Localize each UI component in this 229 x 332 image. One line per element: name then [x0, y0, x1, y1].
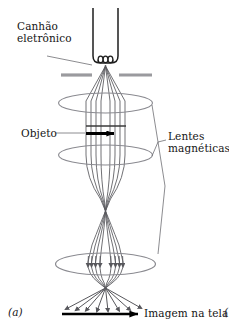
final-diverging-beam: [66, 288, 141, 311]
leader-line-lens-stub: [158, 140, 166, 142]
electron-microscope-diagram: [0, 0, 229, 332]
beam-direction-arrowheads: [88, 256, 123, 266]
label-object: Objeto: [21, 128, 57, 140]
figure-panel-a: Canhão eletrônico Objeto Lentes magnétic…: [0, 0, 229, 332]
electron-gun: [93, 8, 118, 63]
leader-line-lens-3: [158, 142, 165, 254]
filament-coil-icon: [98, 56, 113, 63]
projector-lens-ellipse: [56, 253, 156, 275]
label-electron-gun: Canhão eletrônico: [17, 21, 72, 45]
leader-line-lens-1: [152, 105, 158, 142]
label-screen-image: Imagem na tela: [144, 308, 228, 320]
magnetic-lenses: [56, 93, 156, 275]
leader-line-gun: [47, 56, 92, 65]
panel-label-a: (a): [8, 307, 23, 319]
condenser-lens-ellipse: [59, 93, 153, 113]
label-magnetic-lenses: Lentes magnéticas: [168, 131, 229, 155]
objective-lens-ellipse: [59, 145, 153, 165]
electron-beam-rays: [86, 66, 125, 288]
leader-line-lens-2: [152, 142, 158, 156]
panel-label-next-partial: (: [224, 307, 228, 319]
gun-tube-outline: [93, 8, 118, 63]
